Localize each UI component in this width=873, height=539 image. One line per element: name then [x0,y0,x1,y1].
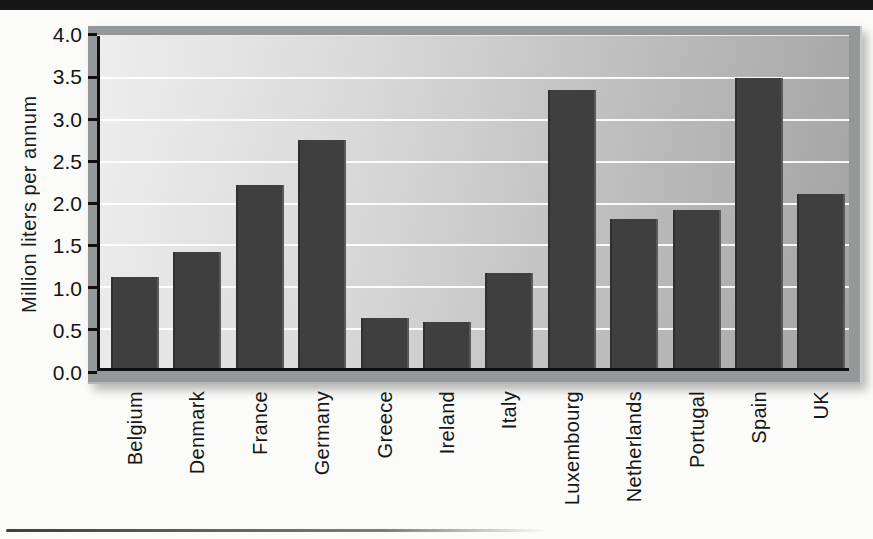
bar-belgium [111,277,159,368]
x-label-belgium: Belgium [124,391,147,465]
x-label-greece: Greece [373,391,396,458]
x-label-luxembourg: Luxembourg [560,391,583,505]
y-tick-1.5 [88,244,97,247]
y-tick-label-3.5: 3.5 [53,65,82,89]
x-label-ireland: Ireland [436,391,459,454]
y-tick-3.0 [88,118,97,121]
x-label-france: France [248,391,271,455]
y-tick-0.0 [88,371,97,374]
x-label-italy: Italy [498,391,521,429]
y-tick-2.5 [88,160,97,163]
y-axis-line [97,36,100,371]
chart-frame [88,26,862,384]
bar-ireland [423,322,471,368]
y-tick-4.0 [88,33,97,36]
x-axis-line [97,368,849,371]
bar-spain [735,78,783,369]
bar-france [236,185,284,368]
y-tick-3.5 [88,76,97,79]
x-label-denmark: Denmark [186,391,209,474]
x-label-germany: Germany [311,391,334,475]
bar-germany [298,140,346,368]
y-tick-label-0.0: 0.0 [53,361,82,385]
y-tick-label-1.5: 1.5 [53,234,82,258]
page-rule [6,529,548,532]
cropped-title-band [0,0,873,10]
bars-container [100,36,849,368]
y-tick-label-2.0: 2.0 [53,192,82,216]
y-tick-labels: 0.00.51.01.52.02.53.03.54.0 [0,35,84,373]
y-tick-2.0 [88,202,97,205]
y-tick-0.5 [88,328,97,331]
bar-denmark [173,252,221,368]
bar-uk [797,194,845,368]
plot-area [97,35,849,371]
x-label-portugal: Portugal [685,391,708,468]
y-tick-1.0 [88,286,97,289]
y-tick-label-0.5: 0.5 [53,319,82,343]
bar-netherlands [610,219,658,368]
y-tick-label-1.0: 1.0 [53,277,82,301]
y-tick-label-4.0: 4.0 [53,23,82,47]
x-label-uk: UK [810,391,833,419]
x-label-spain: Spain [748,391,771,444]
bar-greece [361,318,409,368]
y-tick-label-3.0: 3.0 [53,108,82,132]
y-tick-label-2.5: 2.5 [53,150,82,174]
bar-portugal [673,210,721,368]
bar-luxembourg [548,90,596,368]
x-label-netherlands: Netherlands [623,391,646,502]
bar-italy [485,273,533,368]
